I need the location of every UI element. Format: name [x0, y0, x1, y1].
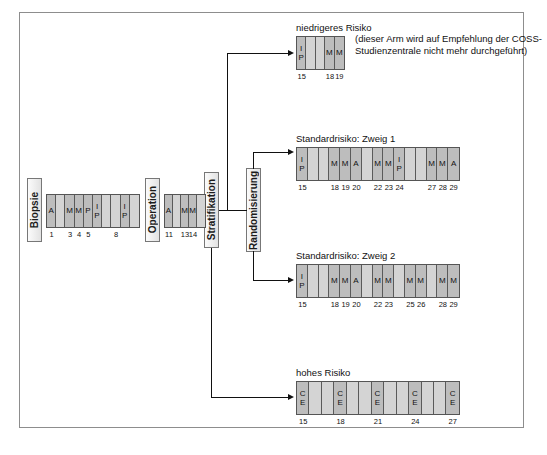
treatment-cell: M: [405, 265, 416, 297]
week-number: 20: [349, 182, 363, 193]
treatment-cell: M: [427, 148, 438, 180]
treatment-strip-postoperative: AMM: [164, 194, 206, 228]
week-ruler-low-risk: 151819: [296, 71, 345, 82]
week-number: 29: [447, 299, 461, 310]
treatment-cell: A: [448, 148, 459, 180]
drug-code: P: [85, 207, 90, 215]
drug-code: P: [94, 212, 99, 220]
drug-code: M: [374, 277, 381, 285]
treatment-strip-standard-1: IPMMAMMIPMMA: [296, 147, 460, 181]
drug-code-top: C: [375, 390, 381, 398]
treatment-cell: A: [165, 195, 173, 227]
connector-random-riser-up: [253, 152, 254, 169]
week-number: 15: [296, 416, 310, 427]
drug-code: M: [439, 277, 446, 285]
treatment-cell: M: [65, 195, 74, 227]
stage-box-stratifikation: Stratifikation: [204, 172, 219, 248]
treatment-cell: [397, 382, 409, 414]
drug-code: M: [342, 277, 349, 285]
treatment-cell: A: [351, 148, 362, 180]
drug-code: A: [353, 160, 358, 168]
drug-code: P: [396, 165, 401, 173]
drug-code: M: [439, 160, 446, 168]
drug-code: M: [181, 207, 188, 215]
treatment-cell: [173, 195, 181, 227]
week-number: 18: [334, 416, 348, 427]
treatment-cell: [197, 195, 205, 227]
drug-code-top: I: [300, 45, 302, 53]
drug-code-top: I: [301, 273, 303, 281]
treatment-cell: [306, 37, 315, 69]
drug-code: M: [385, 160, 392, 168]
week-number: 8: [109, 229, 123, 240]
drug-code: P: [299, 54, 304, 62]
arrow-zweig2-icon: [288, 277, 294, 283]
stage-box-biopsie: Biopsie: [27, 178, 42, 242]
treatment-strip-standard-2: IPMMAMMMMMM: [296, 264, 460, 298]
treatment-cell: M: [373, 148, 384, 180]
drug-code: A: [451, 160, 456, 168]
week-number: 5: [81, 229, 95, 240]
stage-box-operation: Operation: [145, 178, 160, 242]
stage-box-biopsie-label: Biopsie: [30, 192, 40, 228]
treatment-cell: A: [351, 265, 362, 297]
treatment-cell: IP: [297, 148, 308, 180]
connector-strat-riser-bottom: [211, 248, 212, 398]
week-ruler-standard-1: 15181920222324272829: [296, 182, 460, 193]
drug-code: M: [336, 49, 343, 57]
treatment-cell: M: [437, 265, 448, 297]
drug-code-top: C: [300, 390, 306, 398]
drug-code: M: [374, 160, 381, 168]
week-number: 14: [186, 229, 200, 240]
week-number: 27: [446, 416, 460, 427]
treatment-cell: [416, 148, 427, 180]
week-number: 21: [371, 416, 385, 427]
drug-code: E: [375, 399, 380, 407]
connector-to-zweig1: [253, 152, 290, 153]
week-number: 15: [295, 182, 309, 193]
treatment-cell: [422, 382, 434, 414]
low-risk-note: (dieser Arm wird auf Empfehlung der COSS…: [355, 33, 547, 56]
treatment-strip-high-risk: CECECECECE: [296, 381, 460, 415]
drug-code: P: [299, 282, 304, 290]
treatment-cell: [111, 195, 120, 227]
treatment-cell: IP: [93, 195, 102, 227]
arrow-high-risk-icon: [288, 394, 294, 400]
figure-caption-cropped: [20, 446, 520, 455]
treatment-cell: IP: [297, 265, 308, 297]
treatment-cell: [102, 195, 111, 227]
treatment-cell: M: [325, 37, 334, 69]
connector-to-zweig2: [253, 280, 290, 281]
drug-code: M: [331, 160, 338, 168]
stage-box-randomisierung-label: Randomisierung: [249, 171, 259, 250]
drug-code: P: [299, 165, 304, 173]
drug-code: A: [353, 277, 358, 285]
week-number: 26: [414, 299, 428, 310]
connector-strat-riser-top: [227, 53, 228, 211]
treatment-cell: CE: [334, 382, 346, 414]
stage-box-randomisierung: Randomisierung: [246, 168, 261, 252]
treatment-cell: M: [329, 265, 340, 297]
week-number: 24: [393, 182, 407, 193]
treatment-cell: M: [340, 265, 351, 297]
treatment-cell: [308, 265, 319, 297]
treatment-cell: [347, 382, 359, 414]
week-number: 24: [408, 416, 422, 427]
connector-to-high-risk: [211, 397, 290, 398]
treatment-cell: [130, 195, 139, 227]
drug-code: M: [189, 207, 196, 215]
stage-box-stratifikation-label: Stratifikation: [207, 179, 217, 240]
treatment-cell: M: [335, 37, 344, 69]
drug-code: A: [166, 207, 171, 215]
drug-code-top: I: [398, 156, 400, 164]
treatment-cell: [56, 195, 65, 227]
connector-to-low-risk: [227, 53, 290, 54]
treatment-cell: CE: [409, 382, 421, 414]
branch-title-low-risk: niedrigeres Risiko: [296, 22, 372, 33]
treatment-strip-low-risk: IPMM: [296, 36, 345, 70]
week-ruler-postoperative: 111314: [164, 229, 206, 240]
treatment-cell: CE: [446, 382, 458, 414]
drug-code: E: [450, 399, 455, 407]
week-ruler-high-risk: 1518212427: [296, 416, 460, 427]
